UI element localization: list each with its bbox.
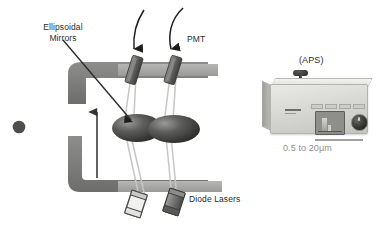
signal-arrow-right <box>170 8 183 49</box>
display-screen <box>315 111 345 135</box>
aps-label: (APS) <box>299 55 324 66</box>
ellipsoidal-mirrors-label: Ellipsoidal Mirrors <box>32 22 94 43</box>
signal-arrow-left <box>134 10 144 49</box>
aps-instrument-photo <box>262 70 372 140</box>
figure-root: Ellipsoidal Mirrors PMT Diode Lasers <box>0 0 380 229</box>
diode-laser-left <box>125 190 148 218</box>
ellipsoidal-mirror-right <box>148 115 200 143</box>
particle-dot-icon <box>13 121 26 134</box>
front-panel-buttons <box>311 104 369 108</box>
pmt-label: PMT <box>187 34 205 45</box>
rotary-knob-icon <box>351 114 368 131</box>
diode-laser-right <box>163 188 186 216</box>
instrument-model-text <box>315 139 367 142</box>
brand-logo-icon <box>285 109 303 117</box>
instrument-front-panel <box>270 84 368 134</box>
diode-lasers-label: Diode Lasers <box>189 194 240 205</box>
size-range-label: 0.5 to 20μm <box>283 143 332 154</box>
